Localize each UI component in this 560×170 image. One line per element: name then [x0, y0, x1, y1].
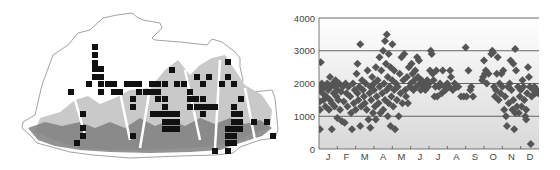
- record-square: [117, 89, 123, 95]
- record-square: [231, 81, 237, 87]
- record-square: [92, 60, 98, 66]
- record-square: [225, 148, 231, 154]
- x-tick-label: A: [380, 151, 387, 162]
- record-square: [237, 119, 243, 125]
- record-square: [150, 111, 156, 117]
- y-tick-label: 4000: [294, 13, 315, 24]
- record-square: [225, 126, 231, 132]
- record-square: [200, 96, 206, 102]
- record-square: [206, 104, 212, 110]
- record-square: [168, 111, 174, 117]
- record-square: [212, 104, 218, 110]
- record-square: [92, 52, 98, 58]
- x-tick-label: J: [417, 151, 422, 162]
- x-tick-label: F: [344, 151, 350, 162]
- x-tick-label: N: [508, 151, 515, 162]
- record-square: [105, 81, 111, 87]
- record-square: [130, 81, 136, 87]
- record-square: [98, 89, 104, 95]
- bhutan-map: [0, 0, 290, 170]
- record-square: [200, 104, 206, 110]
- record-square: [169, 67, 175, 73]
- record-square: [231, 133, 237, 139]
- record-square: [98, 74, 104, 80]
- record-square: [162, 119, 168, 125]
- x-tick-label: D: [526, 151, 533, 162]
- record-square: [162, 111, 168, 117]
- record-square: [237, 126, 243, 132]
- record-square: [130, 96, 136, 102]
- record-square: [225, 140, 231, 146]
- record-square: [194, 104, 200, 110]
- x-tick-label: O: [489, 151, 496, 162]
- x-tick-label: M: [398, 151, 406, 162]
- x-tick-label: J: [326, 151, 331, 162]
- record-square: [111, 89, 117, 95]
- record-square: [187, 104, 193, 110]
- x-tick-label: J: [436, 151, 441, 162]
- elevation-month-scatter: 01000200030004000 JFMAMJJASOND: [290, 0, 560, 170]
- record-square: [155, 81, 161, 87]
- record-square: [149, 81, 155, 87]
- record-square: [80, 133, 86, 139]
- x-tick-label: A: [453, 151, 460, 162]
- record-square: [238, 96, 244, 102]
- record-square: [111, 81, 117, 87]
- record-square: [219, 81, 225, 87]
- record-square: [168, 119, 174, 125]
- record-square: [237, 111, 243, 117]
- record-square: [130, 104, 136, 110]
- record-square: [80, 111, 86, 117]
- record-square: [231, 111, 237, 117]
- record-square: [162, 96, 168, 102]
- figure: 01000200030004000 JFMAMJJASOND: [0, 0, 560, 170]
- record-square: [251, 119, 257, 125]
- record-square: [225, 74, 231, 80]
- record-square: [156, 111, 162, 117]
- record-square: [130, 133, 136, 139]
- y-tick-label: 3000: [294, 45, 315, 56]
- record-square: [92, 44, 98, 50]
- record-square: [92, 66, 98, 72]
- record-square: [98, 81, 104, 87]
- record-square: [155, 96, 161, 102]
- x-tick-label: S: [472, 151, 478, 162]
- record-square: [187, 96, 193, 102]
- record-square: [124, 81, 130, 87]
- scatter-chart: 01000200030004000 JFMAMJJASOND: [290, 0, 560, 170]
- record-square: [200, 81, 206, 87]
- distribution-map: [0, 0, 290, 170]
- record-square: [181, 81, 187, 87]
- record-square: [174, 126, 180, 132]
- record-square: [231, 126, 237, 132]
- y-axis-ticks: 01000200030004000: [294, 13, 315, 155]
- record-square: [174, 81, 180, 87]
- record-square: [155, 89, 161, 95]
- record-square: [225, 133, 231, 139]
- record-square: [98, 66, 104, 72]
- record-square: [168, 126, 174, 132]
- record-square: [149, 89, 155, 95]
- record-square: [194, 74, 200, 80]
- record-square: [68, 89, 74, 95]
- record-square: [225, 59, 231, 65]
- record-square: [174, 111, 180, 117]
- record-square: [231, 119, 237, 125]
- record-square: [200, 111, 206, 117]
- record-square: [162, 126, 168, 132]
- record-square: [270, 133, 276, 139]
- record-square: [92, 74, 98, 80]
- record-square: [136, 89, 142, 95]
- y-tick-label: 1000: [294, 111, 315, 122]
- record-square: [231, 104, 237, 110]
- record-square: [143, 89, 149, 95]
- record-square: [136, 81, 142, 87]
- record-square: [80, 125, 86, 131]
- y-tick-label: 2000: [294, 78, 315, 89]
- record-square: [206, 74, 212, 80]
- record-square: [187, 89, 193, 95]
- record-square: [264, 119, 270, 125]
- record-square: [231, 140, 237, 146]
- y-tick-label: 0: [310, 144, 315, 155]
- record-square: [212, 148, 218, 154]
